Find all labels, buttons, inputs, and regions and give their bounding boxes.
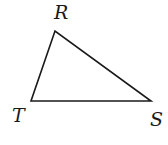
triangle-rts — [31, 31, 151, 101]
triangle-diagram: R T S — [0, 0, 168, 145]
vertex-label-t: T — [12, 106, 25, 125]
vertex-label-r: R — [54, 3, 68, 22]
triangle-svg — [0, 0, 168, 145]
vertex-label-s: S — [150, 110, 163, 129]
